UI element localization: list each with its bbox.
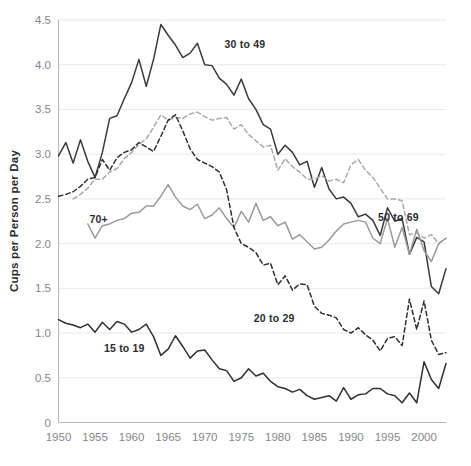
x-tick-label-1980: 1980 xyxy=(265,431,291,443)
x-tick-label-1955: 1955 xyxy=(82,431,108,443)
series-annotations: 30 to 4950 to 6970+20 to 2915 to 19 xyxy=(89,38,418,354)
series-line-15-to-19 xyxy=(59,320,447,403)
x-tick-label-1975: 1975 xyxy=(228,431,254,443)
y-axis-title: Cups per Person per Day xyxy=(8,150,20,292)
x-tick-label-1985: 1985 xyxy=(302,431,328,443)
series-line-50-to-69 xyxy=(73,112,446,243)
coffee-consumption-chart: 00.51.01.52.02.53.03.54.04.5 19501955196… xyxy=(0,0,471,466)
y-tick-label-1.5: 1.5 xyxy=(35,282,51,294)
series-label-20-to-29: 20 to 29 xyxy=(254,312,295,324)
x-axis-tick-labels: 1950195519601965197019751980198519901995… xyxy=(46,431,437,443)
chart-canvas: 00.51.01.52.02.53.03.54.04.5 19501955196… xyxy=(0,0,471,466)
series-label-50-to-69: 50 to 69 xyxy=(378,211,419,223)
x-tick-label-1950: 1950 xyxy=(46,431,72,443)
y-tick-label-2.5: 2.5 xyxy=(35,193,51,205)
y-tick-label-0.5: 0.5 xyxy=(35,372,51,384)
x-tick-label-1990: 1990 xyxy=(338,431,364,443)
y-tick-label-2.0: 2.0 xyxy=(35,238,51,250)
y-tick-label-4.5: 4.5 xyxy=(35,14,51,26)
x-tick-label-1960: 1960 xyxy=(119,431,145,443)
x-tick-label-1970: 1970 xyxy=(192,431,218,443)
y-tick-label-3.5: 3.5 xyxy=(35,103,51,115)
y-tick-label-3.0: 3.0 xyxy=(35,148,51,160)
x-tick-label-1965: 1965 xyxy=(155,431,181,443)
y-axis-tick-labels: 00.51.01.52.02.53.03.54.04.5 xyxy=(35,14,51,429)
x-tick-label-1995: 1995 xyxy=(375,431,401,443)
series-label-30-to-49: 30 to 49 xyxy=(225,38,266,50)
y-tick-label-0: 0 xyxy=(45,417,51,429)
series-line-70- xyxy=(88,185,446,262)
series-line-20-to-29 xyxy=(59,115,447,355)
series-label-15-to-19: 15 to 19 xyxy=(104,342,145,354)
series-label-70-: 70+ xyxy=(89,213,107,225)
y-tick-label-1.0: 1.0 xyxy=(35,327,51,339)
x-tick-label-2000: 2000 xyxy=(411,431,437,443)
y-tick-label-4.0: 4.0 xyxy=(35,59,51,71)
